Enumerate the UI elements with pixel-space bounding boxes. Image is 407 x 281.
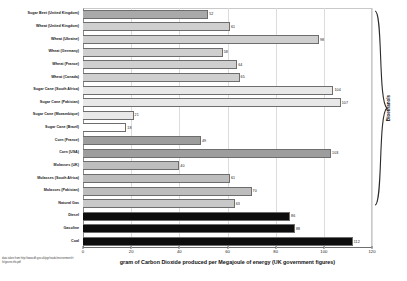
- category-label: Sugar Cane (Brazil): [0, 122, 81, 135]
- bar: 63: [83, 199, 235, 208]
- category-label: Gasoline: [0, 223, 81, 236]
- category-label: Wheat (France): [0, 59, 81, 72]
- bar: 40: [83, 161, 179, 170]
- bar-row: 63: [83, 197, 372, 210]
- bar-row: 98: [83, 33, 372, 46]
- bar: 70: [83, 187, 252, 196]
- category-label: Natural Gas: [0, 197, 81, 210]
- bar-row: 18: [83, 122, 372, 135]
- bioethanols-bracket-label: Bioethanols: [386, 95, 391, 121]
- bar-row: 61: [83, 21, 372, 34]
- category-label: Sugar Cane (Mozambique): [0, 109, 81, 122]
- bar: 86: [83, 212, 290, 221]
- co2-emissions-bar-chart: Sugar Beet (United Kingdom)Wheat (United…: [0, 0, 407, 281]
- bar-value-label: 18: [127, 126, 131, 130]
- bar-value-label: 61: [231, 25, 235, 29]
- category-label: Coal: [0, 235, 81, 248]
- category-label: Wheat (United Kingdom): [0, 21, 81, 34]
- bar: 61: [83, 174, 230, 183]
- bar-value-label: 61: [231, 176, 235, 180]
- bar: 61: [83, 22, 230, 31]
- bar-value-label: 107: [342, 101, 348, 105]
- bar-rows: 5261985864651041072118491034061706386881…: [83, 8, 372, 248]
- bar: 107: [83, 98, 341, 107]
- x-tick-label: 20: [129, 249, 134, 254]
- bar: 103: [83, 149, 331, 158]
- bar: 64: [83, 60, 237, 69]
- bar-row: 61: [83, 172, 372, 185]
- bar: 49: [83, 136, 201, 145]
- category-label: Molasses (South Africa): [0, 172, 81, 185]
- bar-value-label: 98: [320, 38, 324, 42]
- category-axis-labels: Sugar Beet (United Kingdom)Wheat (United…: [0, 8, 81, 248]
- x-tick-label: 60: [225, 249, 230, 254]
- bar-row: 40: [83, 160, 372, 173]
- bar: 65: [83, 73, 240, 82]
- bar-row: 103: [83, 147, 372, 160]
- bar-row: 104: [83, 84, 372, 97]
- bar: 52: [83, 10, 208, 19]
- bar-row: 70: [83, 185, 372, 198]
- bar: 112: [83, 237, 353, 246]
- x-axis-ticks: 020406080100120: [83, 249, 372, 258]
- bar-value-label: 21: [135, 113, 139, 117]
- bar-value-label: 112: [354, 240, 360, 244]
- bar-row: 21: [83, 109, 372, 122]
- bar-row: 52: [83, 8, 372, 21]
- x-tick-label: 100: [320, 249, 327, 254]
- category-label: Wheat (Ukraine): [0, 33, 81, 46]
- category-label: Diesel: [0, 210, 81, 223]
- bar-value-label: 103: [332, 151, 338, 155]
- bar-row: 65: [83, 71, 372, 84]
- bar-value-label: 70: [253, 189, 257, 193]
- bar-value-label: 49: [202, 139, 206, 143]
- category-label: Sugar Cane (Pakistan): [0, 96, 81, 109]
- source-note: data taken from http://www.dft.gov.uk/pg…: [2, 257, 74, 264]
- plot-area: 5261985864651041072118491034061706386881…: [83, 8, 372, 248]
- x-tick-label: 80: [273, 249, 278, 254]
- bar: 58: [83, 48, 223, 57]
- category-label: Molasses (Pakistan): [0, 185, 81, 198]
- x-tick-label: 0: [82, 249, 84, 254]
- bar-value-label: 58: [224, 50, 228, 54]
- category-label: Wheat (Germany): [0, 46, 81, 59]
- category-label: Molasses (UK): [0, 160, 81, 173]
- bar-value-label: 88: [296, 227, 300, 231]
- bar-row: 49: [83, 134, 372, 147]
- category-label: Sugar Cane (South Africa): [0, 84, 81, 97]
- bar-value-label: 40: [180, 164, 184, 168]
- category-label: Corn (France): [0, 134, 81, 147]
- bar: 18: [83, 123, 126, 132]
- gridline: [372, 8, 373, 248]
- bar-row: 86: [83, 210, 372, 223]
- category-label: Wheat (Canada): [0, 71, 81, 84]
- bar-value-label: 104: [334, 88, 340, 92]
- bar: 21: [83, 111, 134, 120]
- x-axis-title: gram of Carbon Dioxide produced per Mega…: [83, 259, 372, 265]
- category-label: Sugar Beet (United Kingdom): [0, 8, 81, 21]
- bar: 88: [83, 224, 295, 233]
- bar: 104: [83, 86, 333, 95]
- bar-row: 64: [83, 59, 372, 72]
- bar-row: 58: [83, 46, 372, 59]
- bar-row: 88: [83, 223, 372, 236]
- bar-value-label: 64: [238, 63, 242, 67]
- x-tick-label: 40: [177, 249, 182, 254]
- x-tick-label: 120: [369, 249, 376, 254]
- bar-value-label: 52: [209, 12, 213, 16]
- bar: 98: [83, 35, 319, 44]
- bar-row: 107: [83, 96, 372, 109]
- bar-value-label: 65: [241, 75, 245, 79]
- category-label: Corn (USA): [0, 147, 81, 160]
- bar-value-label: 63: [236, 202, 240, 206]
- bar-value-label: 86: [291, 214, 295, 218]
